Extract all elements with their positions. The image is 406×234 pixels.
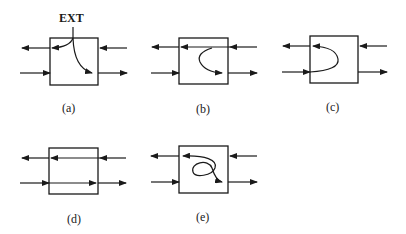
loopback-curve xyxy=(310,46,338,72)
panel-label-b: (b) xyxy=(196,102,210,116)
ext-to-right-curve xyxy=(73,38,92,73)
turn-curve xyxy=(199,48,222,73)
panel-c: (c) xyxy=(282,36,387,114)
box-c xyxy=(310,36,358,83)
panel-label-d: (d) xyxy=(67,212,81,226)
ext-label: EXT xyxy=(59,11,84,25)
panel-label-e: (e) xyxy=(196,210,209,224)
panel-a: EXT (a) xyxy=(20,11,127,115)
panel-label-a: (a) xyxy=(62,101,75,115)
box-b xyxy=(179,38,228,84)
panel-d: (d) xyxy=(20,148,126,226)
s-loop-curve-lower xyxy=(193,162,222,182)
panel-e: (e) xyxy=(151,146,257,224)
box-d xyxy=(49,148,98,194)
switch-configurations-diagram: EXT (a) (b) (c) xyxy=(0,0,406,234)
panel-label-c: (c) xyxy=(326,100,339,114)
panel-b: (b) xyxy=(151,38,257,116)
ext-to-left-curve xyxy=(52,38,73,48)
box-e xyxy=(179,146,228,193)
